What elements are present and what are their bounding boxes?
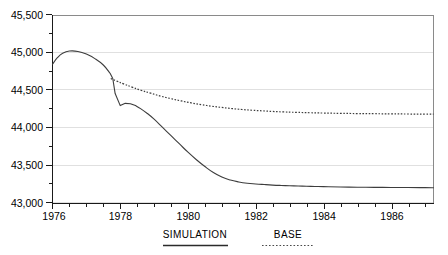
- chart-figure: 45,500 45,000 44,500 44,000 43,500 43,00…: [0, 0, 448, 255]
- x-tick-label: 1984: [312, 210, 336, 222]
- x-axis-tick-labels: 1976 1978 1980 1982 1984 1986: [42, 210, 404, 222]
- x-tick-label: 1976: [42, 210, 66, 222]
- y-tick-label: 43,000: [11, 197, 43, 209]
- y-tick-label: 43,500: [11, 159, 43, 171]
- y-axis-minor-ticks: [49, 33, 52, 183]
- y-tick-label: 44,500: [11, 84, 43, 96]
- y-axis-tick-labels: 45,500 45,000 44,500 44,000 43,500 43,00…: [11, 9, 43, 209]
- x-tick-label: 1982: [245, 210, 269, 222]
- x-tick-label: 1980: [177, 210, 201, 222]
- x-tick-label: 1986: [380, 210, 404, 222]
- y-tick-label: 45,000: [11, 46, 43, 58]
- plot-background: [52, 15, 434, 203]
- legend-label-simulation: SIMULATION: [163, 229, 227, 240]
- x-tick-label: 1978: [109, 210, 133, 222]
- legend-label-base: BASE: [274, 229, 302, 240]
- x-axis-minor-ticks: [70, 203, 426, 207]
- y-tick-label: 45,500: [11, 9, 43, 21]
- line-chart: 45,500 45,000 44,500 44,000 43,500 43,00…: [0, 0, 448, 255]
- y-tick-label: 44,000: [11, 121, 43, 133]
- chart-legend: SIMULATION BASE: [163, 229, 314, 246]
